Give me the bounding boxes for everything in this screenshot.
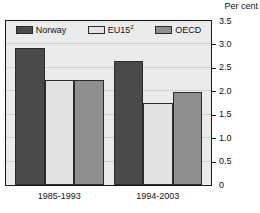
y-axis-tick-mark [212, 68, 216, 69]
bar-chart: Per cent 00.51.01.52.02.53.03.5 NorwayEU… [0, 0, 260, 213]
bar-oecd-1985-1993 [74, 80, 104, 185]
bar-norway-1994-2003 [114, 61, 144, 185]
y-axis-unit-label: Per cent [224, 1, 258, 11]
bars-layer [6, 21, 211, 185]
y-axis-tick-label: 0 [219, 181, 224, 190]
y-axis-tick-mark [212, 162, 216, 163]
y-axis-tick-mark [212, 44, 216, 45]
x-axis-label-1994-2003: 1994-2003 [118, 191, 198, 201]
y-axis-tick-label: 0.5 [219, 157, 232, 166]
y-axis-tick-label: 3.0 [219, 40, 232, 49]
y-axis-tick-mark [212, 91, 216, 92]
y-axis-tick-label: 2.0 [219, 87, 232, 96]
x-axis-label-1985-1993: 1985-1993 [19, 191, 99, 201]
bar-eu15-1994-2003 [143, 103, 173, 185]
y-axis-tick-label: 1.0 [219, 134, 232, 143]
plot-area [5, 20, 212, 186]
bar-norway-1985-1993 [15, 48, 45, 185]
y-axis-tick-label: 2.5 [219, 63, 232, 72]
bar-oecd-1994-2003 [173, 92, 203, 185]
bar-eu15-1985-1993 [45, 80, 75, 185]
y-axis-tick-mark [212, 138, 216, 139]
y-axis-tick-label: 1.5 [219, 110, 232, 119]
y-axis-tick-mark [212, 115, 216, 116]
y-axis-tick-label: 3.5 [219, 17, 232, 26]
